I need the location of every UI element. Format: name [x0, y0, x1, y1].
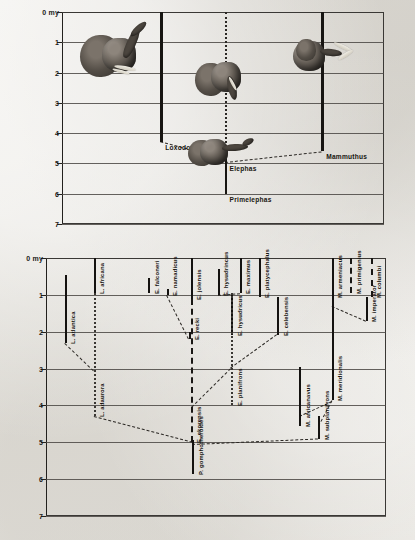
range-label: E. hysudricus: [237, 296, 243, 337]
ancestry-link: [331, 306, 365, 322]
gridline: [62, 224, 384, 225]
range-label: Mammuthus: [326, 153, 367, 160]
y-axis: [46, 258, 47, 516]
ancestry-link: [231, 335, 277, 369]
ancestry-link: [192, 368, 232, 407]
range-label: E. planifrons: [237, 369, 243, 407]
gridline: [62, 103, 384, 104]
y-axis-tick-label: 5: [55, 160, 59, 167]
y-axis-tick-label: 4: [39, 402, 43, 409]
range-bar: [94, 258, 96, 293]
ancestry-link: [93, 416, 192, 443]
range-label: E. platycephalus: [264, 249, 270, 298]
chart-frame-right: [385, 258, 386, 516]
range-bar: [148, 278, 150, 293]
ancestry-link: [64, 343, 94, 371]
range-label: M. subplanifrons: [324, 390, 330, 440]
range-label: L. adaurora: [99, 384, 105, 418]
y-axis-tick-label: 2: [39, 328, 43, 335]
y-axis-tick-label: 4: [55, 130, 59, 137]
y-axis-tick-label: 0 my: [42, 9, 59, 16]
range-label: L. africana: [99, 263, 105, 294]
range-label: M. primigenius: [356, 250, 362, 294]
y-axis-tick-label: 1: [39, 291, 43, 298]
gridline: [46, 369, 386, 370]
y-axis-tick-label: 6: [39, 476, 43, 483]
y-axis-tick-label: 7: [55, 221, 59, 228]
gridline: [46, 405, 386, 406]
y-axis-tick-label: 3: [39, 365, 43, 372]
primelephas-head: [188, 137, 258, 169]
range-bar: [191, 258, 193, 299]
loxodonta-head: [80, 33, 154, 79]
y-axis-tick-label: 3: [55, 99, 59, 106]
y-axis: [62, 12, 63, 224]
chart-frame-top: [62, 12, 384, 13]
range-label: E. celebensis: [283, 297, 289, 336]
range-bar: [350, 258, 352, 293]
range-bar: [299, 367, 301, 426]
range-bar: [332, 258, 334, 297]
gridline: [46, 479, 386, 480]
range-bar: [192, 440, 194, 473]
range-label: E. jolensis: [196, 269, 202, 300]
gridline: [46, 332, 386, 333]
range-label: M. columbi: [376, 265, 382, 297]
range-bar: [259, 258, 261, 297]
y-axis-tick-label: 2: [55, 69, 59, 76]
range-bar: [191, 299, 193, 443]
range-bar: [277, 297, 279, 336]
range-bar: [321, 12, 323, 151]
gridline: [62, 194, 384, 195]
range-bar: [318, 416, 320, 438]
species-range-chart: 0 my1234567L. atlanticaL. africanaL. ada…: [46, 258, 386, 516]
y-axis-tick-label: 6: [55, 190, 59, 197]
range-label: E. maximus: [245, 260, 251, 294]
range-label: E. falconeri: [154, 260, 160, 294]
gridline: [46, 516, 386, 517]
mammuthus-head: [293, 39, 359, 75]
y-axis-tick-label: 7: [39, 513, 43, 520]
elephas-head: [195, 60, 251, 100]
range-bar: [231, 293, 233, 405]
range-bar: [240, 258, 242, 293]
range-label: M. africanavus: [305, 384, 311, 427]
range-label: M. armeniacus: [337, 255, 343, 298]
range-label: M. imperator: [371, 285, 377, 322]
range-bar: [332, 297, 334, 400]
chart-frame-right: [383, 12, 384, 224]
range-label: E. hysudrincus: [223, 252, 229, 296]
range-label: L. atlantica: [70, 311, 76, 344]
range-label: E. namadicus: [172, 256, 178, 296]
range-bar: [94, 293, 96, 416]
ancestry-link: [166, 295, 189, 340]
gridline: [62, 133, 384, 134]
range-label: Primelephas: [230, 196, 272, 203]
range-label: M. meridionalis: [337, 356, 343, 401]
range-bar: [366, 297, 368, 321]
range-bar: [160, 12, 162, 142]
chart-frame-top: [46, 258, 386, 259]
y-axis-tick-label: 0 my: [26, 255, 43, 262]
range-bar: [218, 269, 220, 295]
y-axis-tick-label: 5: [39, 439, 43, 446]
range-bar: [65, 275, 67, 343]
gridline: [46, 295, 386, 296]
range-label: P. gomphotheroides: [198, 416, 204, 475]
genus-range-chart: 0 my1234567LoxodontaElephasMammuthusPrim…: [62, 12, 384, 224]
range-bar: [167, 289, 169, 295]
range-label: E. recki: [194, 318, 200, 340]
y-axis-tick-label: 1: [55, 39, 59, 46]
